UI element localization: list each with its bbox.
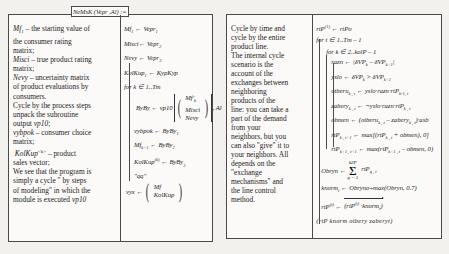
symbol-misci: Misci — [13, 55, 29, 64]
subscript-1: 1 — [21, 29, 24, 34]
paren-right: ) — [205, 102, 208, 113]
right-code-column: rtP(1) ← rtPo for t ∈ 1..Tm – 1 for k ∈ … — [312, 15, 441, 238]
vector-entry: Mf — [154, 183, 175, 191]
desc-line: your neighbors. All — [231, 150, 309, 159]
code-line-for: for t ∈ 1..Tm – 1 — [316, 36, 438, 43]
desc-line: Cycle by time and — [231, 24, 309, 33]
code-line: Misci← Vepr2 — [124, 40, 209, 50]
summation-assignment: Obryn ← k2P Σ q = 1 rtPq , t — [316, 160, 438, 181]
code-token: rtPq , t — [361, 165, 376, 175]
code-line: "qq" — [124, 172, 209, 179]
bracket-left — [174, 94, 175, 121]
code-line: Mfk+1 ← ByBy2 — [124, 141, 209, 151]
desc-line: line: you can take a — [231, 105, 309, 114]
code-line-for: for k ∈ 1..Tm — [124, 83, 209, 90]
code-line: rtP(1) ← rtPo — [316, 23, 438, 32]
code-token: , Al — [213, 104, 222, 111]
inner-loop-rule — [326, 55, 327, 149]
vectorized-assignment: rtP(t) ← (rtP(t) ·knormt) — [316, 198, 438, 213]
desc-line: The internal cycle — [231, 51, 309, 60]
sigma-glyph: Σ — [349, 166, 357, 175]
desc-line: sales vector; — [13, 158, 117, 167]
summation-symbol: k2P Σ q = 1 — [347, 160, 358, 181]
desc-line: from your — [231, 123, 309, 132]
superscript-k: <k> — [38, 149, 46, 154]
code-line: obmen ← (otberuk , t – zaberyk , t)·asb — [316, 116, 438, 126]
desc-line: cycle by the entire — [231, 33, 309, 42]
desc-line: product line. — [231, 42, 309, 51]
loop-body-rule — [129, 63, 130, 181]
code-line: rtPk+1 , t+1 ← max(rtPk+1 , t – obmen, 0… — [316, 145, 438, 155]
sum-lower-limit: q = 1 — [347, 175, 358, 181]
desc-line: scenario is the — [231, 60, 309, 69]
paren-left: ( — [146, 186, 149, 197]
left-description-column: Mf1 – the starting value of the consumer… — [9, 15, 120, 241]
paren-left: ( — [177, 102, 180, 113]
desc-line: Nevy – uncertainty matrix — [13, 73, 117, 82]
desc-line: matrix; — [13, 64, 117, 73]
code-line: razn ← |δVPk – δVPk+1| — [316, 58, 438, 68]
code-token: vyx ← — [126, 188, 143, 195]
code-line: Nevy ← Vepr3 — [124, 54, 209, 64]
code-line-for: for k ∈ 2..kolP – 1 — [316, 48, 438, 55]
vector-entry: KolKup — [154, 191, 175, 199]
desc-line: KolKup<k> – product — [13, 147, 117, 159]
matrix-assignment: ByBy ← vp10 ( Mf'k Misci Nevy ) , Al — [136, 94, 209, 121]
desc-line: We see that the program is — [13, 167, 117, 176]
scanned-page-background: NeMsK (Vepr ,Al) := Mf1 – the starting v… — [0, 0, 449, 254]
code-line: zaberyk , t ← ¬yslo·razn·rtPk , t — [316, 102, 438, 112]
bybybody: ByBy ← vp10 ( Mf'k Misci Nevy ) , Al — [124, 94, 209, 121]
symbol-mf1: Mf — [13, 24, 21, 33]
desc-line: depends on the — [231, 159, 309, 168]
vectorize-arrow: (rtP(t) ·knormt) — [344, 198, 382, 213]
desc-line: neighbors, but you — [231, 132, 309, 141]
desc-line: Misci – true product rating — [13, 55, 117, 64]
desc-line: matrix; — [13, 137, 117, 146]
desc-line: unpack the subroutine — [13, 110, 117, 119]
desc-line: of modeling" in which the — [13, 186, 117, 195]
return-tuple: (rtP knorm otbery zaberyt) — [316, 217, 438, 224]
right-description-column: Cycle by time and cycle by the entire pr… — [227, 15, 312, 238]
symbol-nevy: Nevy — [13, 73, 28, 82]
left-code-column: Mf1 ← Vepr1 Misci← Vepr2 Nevy ← Vepr3 Ko… — [120, 15, 212, 241]
desc-line: of product evaluations by — [13, 82, 117, 91]
symbol-vp10: vp10 — [72, 195, 86, 204]
desc-line: matrix; — [13, 46, 117, 55]
symbol-vybpok: vybpok — [13, 128, 34, 137]
desc-line: Cycle by the process steps — [13, 101, 117, 110]
desc-line: part of the demand — [231, 114, 309, 123]
desc-line: "exchange — [231, 168, 309, 177]
matrix-entry: Nevy — [185, 114, 200, 122]
code-line: otberuk , t ← yslo·razn·rtPk-1, t — [316, 87, 438, 97]
code-token: rtP(t) ← — [321, 201, 342, 210]
desc-line: consumers. — [13, 92, 117, 101]
desc-line: the line control — [231, 186, 309, 195]
matrix-entry: Misci — [185, 106, 200, 114]
matrix-stack: Mf'k Misci Nevy — [183, 94, 202, 121]
code-token: ByBy ← vp10 — [136, 104, 173, 111]
inner-body-rule — [333, 63, 334, 147]
desc-line: products of the — [231, 96, 309, 105]
desc-line: account of the — [231, 69, 309, 78]
desc-line: simply a cycle " by steps — [13, 176, 117, 185]
code-line: knormt ← Obryno÷max(Obryn, 0.7) — [316, 184, 438, 194]
vector-stack: Mf KolKup — [152, 183, 177, 199]
desc-line: the consumer rating — [13, 37, 117, 46]
symbol-kolkup: KolKup — [15, 149, 38, 158]
desc-line: method. — [231, 195, 309, 204]
code-line: vybpok ← ByBy1 — [124, 127, 209, 137]
desc-line: vybpok – consumer choice — [13, 128, 117, 137]
paren-right: ) — [179, 186, 182, 197]
desc-line: can also "give" it to — [231, 141, 309, 150]
desc-line: output vp10; — [13, 119, 117, 128]
desc-line: exchanges between — [231, 78, 309, 87]
code-line: KolKup1 ← KypKyp — [124, 69, 209, 79]
code-token: Obryn ← — [321, 167, 346, 174]
outer-loop-rule — [319, 39, 320, 224]
return-vector: vyx ← ( Mf KolKup ) — [124, 183, 209, 199]
desc-line: Mf1 – the starting value of — [13, 24, 117, 37]
desc-line: module is executed vp10 — [13, 195, 117, 204]
code-line: Mf1 ← Vepr1 — [124, 25, 209, 35]
bracket-right — [211, 94, 212, 121]
matrix-entry: Mf'k — [185, 94, 200, 105]
